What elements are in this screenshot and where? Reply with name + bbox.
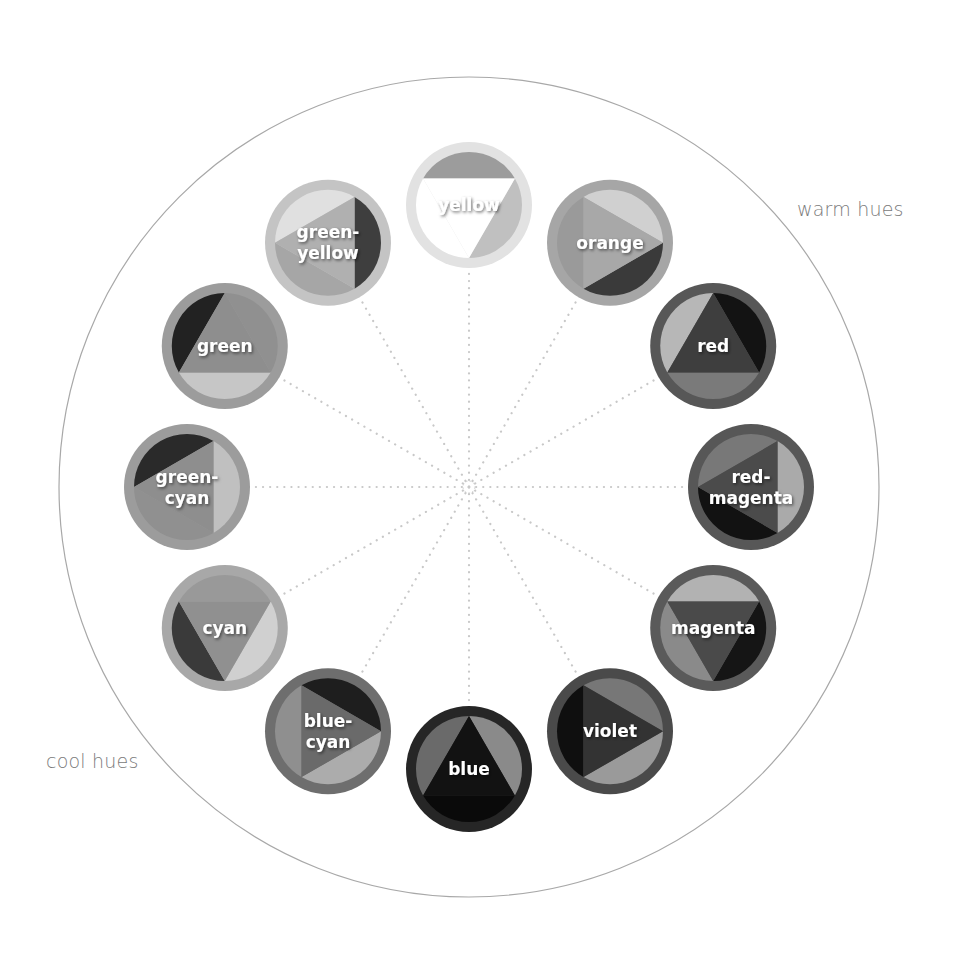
hue-circle-violet: violet: [547, 668, 673, 794]
hue-label-green-yellow: green-yellow: [297, 222, 360, 263]
hue-label-green: green: [197, 336, 253, 356]
cool-hues-label: cool hues: [46, 750, 139, 772]
spoke-lines: [187, 205, 751, 769]
hue-circle-magenta: magenta: [650, 565, 776, 691]
hue-label-orange: orange: [576, 233, 643, 253]
hue-label-violet: violet: [583, 721, 637, 741]
warm-hues-label: warm hues: [797, 198, 904, 220]
hue-circle-yellow: yellow: [406, 142, 532, 268]
hue-circle-red-magenta: red-magenta: [688, 424, 814, 550]
hue-label-cyan: cyan: [202, 618, 247, 638]
hue-label-blue-cyan: blue-cyan: [304, 711, 353, 752]
hue-label-yellow: yellow: [438, 195, 500, 215]
hue-label-magenta: magenta: [671, 618, 756, 638]
hue-circle-green: green: [162, 283, 288, 409]
hue-circle-green-yellow: green-yellow: [265, 180, 391, 306]
hue-circle-orange: orange: [547, 180, 673, 306]
hue-label-red: red: [697, 336, 729, 356]
hue-circle-green-cyan: green-cyan: [124, 424, 250, 550]
hue-circle-blue: blue: [406, 706, 532, 832]
color-wheel-diagram: yelloworangeredred-magentamagentavioletb…: [0, 0, 954, 975]
hue-circle-red: red: [650, 283, 776, 409]
hue-circle-blue-cyan: blue-cyan: [265, 668, 391, 794]
hue-label-blue: blue: [448, 759, 490, 779]
color-wheel-graphic: yelloworangeredred-magentamagentavioletb…: [0, 0, 954, 975]
hue-circle-cyan: cyan: [162, 565, 288, 691]
hue-label-green-cyan: green-cyan: [156, 467, 219, 508]
